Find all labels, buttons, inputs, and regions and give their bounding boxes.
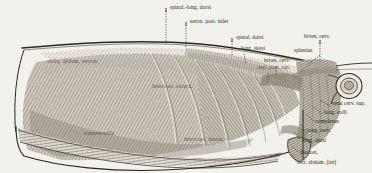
label-serr-post-sup: serr. post. sup. xyxy=(258,65,291,70)
label-complexus: complexus xyxy=(315,119,339,124)
label-transversalis: transversalis xyxy=(84,131,114,136)
anatomical-figure: spinal.-long. dorsi serrat. post. infer … xyxy=(0,0,372,173)
label-long-colli: long. colli xyxy=(324,110,347,115)
label-iliocost: iliocost. xyxy=(300,150,318,155)
label-obliq-abdom-extern: obliq. abdom. extern. xyxy=(47,59,99,64)
label-long-dorsi-lower: long. dorsi xyxy=(302,138,326,143)
label-vena-cerv-sup: vena cerv. sup. xyxy=(332,101,365,106)
label-biven-cerv-top: biven. cerv. xyxy=(304,34,330,39)
label-spinal-long-dorsi: spinal.-long. dorsi xyxy=(170,5,211,10)
label-intercost-extern: intercost. extern. xyxy=(152,84,193,89)
label-long-dorsi-upper: long. dorsi xyxy=(241,46,265,51)
label-spinal-dorsi: spinal. dorsi xyxy=(236,35,264,40)
label-intercost-intern: intercost. intern. xyxy=(184,137,224,142)
label-splenius: splenius xyxy=(294,48,312,53)
label-biven-cerv-mid: biven. cerv. xyxy=(264,58,290,63)
label-serrat-post-infer: serrat. post. infer xyxy=(190,19,228,24)
label-rect-abdom-int: rect. abdom. (int) xyxy=(297,160,336,165)
label-long-cerv: long. cerv. xyxy=(307,128,331,133)
